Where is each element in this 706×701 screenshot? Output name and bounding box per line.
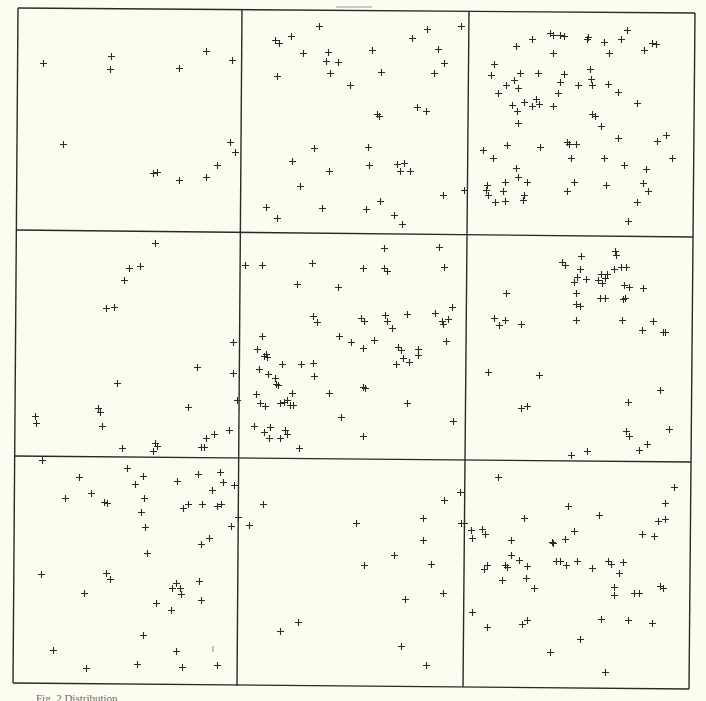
grid-cell-r2-c0: [38, 457, 242, 672]
plus-marker: [391, 552, 398, 559]
plus-marker: [39, 457, 46, 464]
plus-marker: [335, 284, 342, 291]
plus-marker: [144, 550, 151, 557]
plus-marker: [384, 318, 391, 325]
plus-marker: [625, 399, 632, 406]
plus-marker: [524, 563, 531, 570]
plus-marker: [377, 198, 384, 205]
grid-cell-r0-c1: [263, 23, 468, 228]
plus-marker: [381, 245, 388, 252]
plus-marker: [138, 509, 145, 516]
plus-marker: [602, 669, 609, 676]
plus-marker: [563, 562, 570, 569]
plus-marker: [360, 345, 367, 352]
plus-marker: [214, 162, 221, 169]
plus-marker: [550, 50, 557, 57]
plus-marker: [440, 590, 447, 597]
plus-marker: [443, 338, 450, 345]
plus-marker: [297, 183, 304, 190]
plus-marker: [288, 33, 295, 40]
plus-marker: [199, 501, 206, 508]
plus-marker: [549, 539, 556, 546]
scatter-figure: Fig. 2 Distribution: [0, 0, 706, 701]
plus-marker: [203, 174, 210, 181]
plus-marker: [615, 89, 622, 96]
plus-marker: [230, 339, 237, 346]
plus-marker: [180, 505, 187, 512]
plus-marker: [468, 527, 475, 534]
frame-border: [13, 8, 18, 683]
plus-marker: [365, 144, 372, 151]
plus-marker: [519, 621, 526, 628]
plus-marker: [557, 79, 564, 86]
plus-marker: [485, 369, 492, 376]
plus-marker: [531, 585, 538, 592]
plus-marker: [295, 619, 302, 626]
plus-marker: [253, 391, 260, 398]
plus-marker: [296, 445, 303, 452]
plus-marker: [397, 168, 404, 175]
plus-marker: [601, 39, 608, 46]
plus-marker: [360, 433, 367, 440]
plus-marker: [310, 313, 317, 320]
plus-marker: [279, 361, 286, 368]
plus-marker: [625, 617, 632, 624]
plus-marker: [32, 413, 39, 420]
plus-marker: [615, 135, 622, 142]
plus-marker: [272, 375, 279, 382]
plus-marker: [60, 141, 67, 148]
plus-marker: [428, 561, 435, 568]
plus-marker: [415, 346, 422, 353]
frame-border: [689, 13, 695, 689]
plus-marker: [338, 414, 345, 421]
plus-marker: [366, 162, 373, 169]
plus-marker: [178, 591, 185, 598]
plus-marker: [203, 48, 210, 55]
plus-marker: [436, 244, 443, 251]
plus-marker: [141, 495, 148, 502]
plus-marker: [611, 266, 618, 273]
plus-marker: [450, 418, 457, 425]
plus-marker: [415, 352, 422, 359]
plus-marker: [671, 484, 678, 491]
plus-marker: [232, 149, 239, 156]
plus-marker: [119, 445, 126, 452]
plus-marker: [598, 123, 605, 130]
plus-marker: [441, 264, 448, 271]
plus-marker: [420, 537, 427, 544]
plus-marker: [169, 585, 176, 592]
plus-marker: [524, 617, 531, 624]
plus-marker: [574, 558, 581, 565]
plus-marker: [513, 43, 520, 50]
plus-marker: [198, 597, 205, 604]
plus-marker: [561, 71, 568, 78]
plus-marker: [457, 489, 464, 496]
plus-marker: [226, 427, 233, 434]
plus-marker: [153, 600, 160, 607]
plus-marker: [557, 32, 564, 39]
plus-marker: [277, 628, 284, 635]
plus-marker: [230, 370, 237, 377]
plus-marker: [203, 435, 210, 442]
plus-marker: [440, 192, 447, 199]
plus-marker: [557, 558, 564, 565]
plus-marker: [639, 327, 646, 334]
plus-marker: [126, 265, 133, 272]
grid-cell-r0-c0: [40, 48, 239, 184]
plus-marker: [62, 495, 69, 502]
plus-marker: [198, 541, 205, 548]
plus-marker: [568, 452, 575, 459]
plus-marker: [111, 304, 118, 311]
plus-marker: [571, 179, 578, 186]
plus-marker: [274, 73, 281, 80]
plus-marker: [561, 33, 568, 40]
grid-cell-r2-c1: [246, 489, 468, 669]
plus-marker: [414, 104, 421, 111]
plus-marker: [562, 536, 569, 543]
plus-marker: [515, 120, 522, 127]
plus-marker: [382, 312, 389, 319]
plus-marker: [573, 141, 580, 148]
plus-marker: [124, 465, 131, 472]
plus-marker: [509, 102, 516, 109]
plus-marker: [174, 478, 181, 485]
